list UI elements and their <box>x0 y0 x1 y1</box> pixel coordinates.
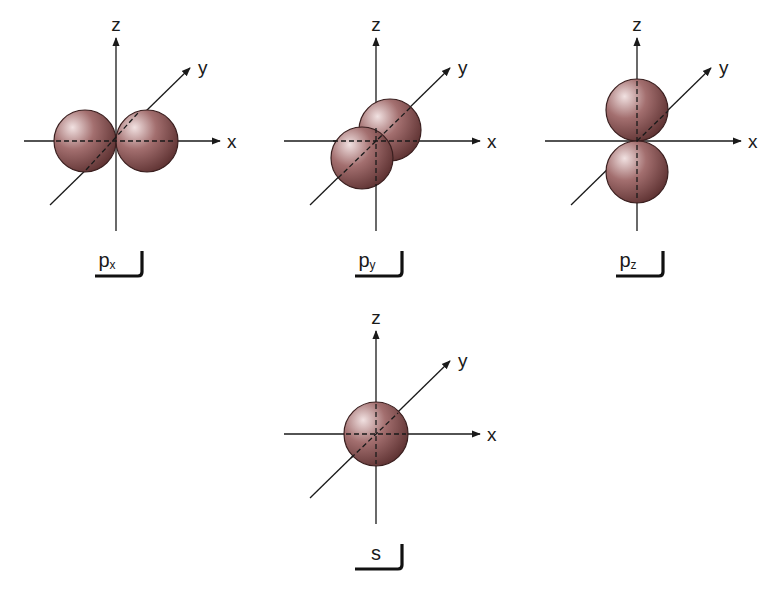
y-axis-label: y <box>458 350 468 371</box>
y-axis-label: y <box>458 57 468 78</box>
x-axis-label: x <box>487 131 497 152</box>
orbital-diagram: zyxpxzyxpyzyxpzzyxs <box>0 0 775 616</box>
orbital-label: py <box>358 249 375 272</box>
orbital-label-subscript: y <box>370 258 376 272</box>
z-axis-label: z <box>371 14 381 35</box>
orbital-label-main: p <box>358 249 369 271</box>
orbital-label-main: p <box>98 249 109 271</box>
orbital-label-subscript: x <box>110 258 116 272</box>
orbital-panel-px: zyxpx <box>24 14 237 276</box>
orbital-label: px <box>98 249 115 272</box>
z-axis-label: z <box>632 14 642 35</box>
orbital-panel-py: zyxpy <box>284 14 497 276</box>
orbital-panel-s: zyxs <box>284 307 497 569</box>
z-axis-label: z <box>111 14 121 35</box>
x-axis-label: x <box>227 131 237 152</box>
y-axis-label: y <box>719 57 729 78</box>
x-axis-label: x <box>487 424 497 445</box>
orbital-label-subscript: z <box>631 258 637 272</box>
orbital-label-main: p <box>619 249 630 271</box>
orbital-lobe <box>331 127 393 189</box>
z-axis-label: z <box>371 307 381 328</box>
orbital-label: pz <box>619 249 636 272</box>
orbital-panel-pz: zyxpz <box>545 14 758 276</box>
orbital-label: s <box>371 542 381 564</box>
y-axis-label: y <box>198 57 208 78</box>
x-axis-label: x <box>748 131 758 152</box>
